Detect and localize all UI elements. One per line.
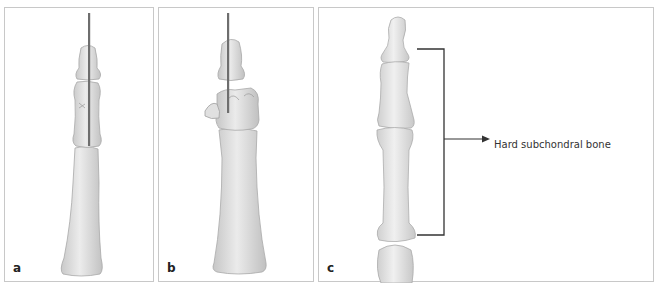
- bracket: [417, 49, 444, 235]
- proximal-phalanx: [61, 147, 102, 276]
- distal-phalanx: [381, 17, 409, 63]
- distal-phalanx: [218, 39, 245, 80]
- k-wire: [227, 13, 229, 113]
- bone-fragment: [205, 103, 220, 118]
- right-arrow-icon: [482, 136, 490, 143]
- proximal-phalanx: [377, 128, 416, 242]
- panel-label-c: c: [327, 261, 334, 275]
- middle-phalanx: [378, 62, 415, 129]
- panel-b: b: [158, 7, 314, 282]
- k-wire: [88, 13, 90, 146]
- panel-label-b: b: [167, 261, 176, 275]
- metacarpal-head: [377, 245, 413, 283]
- annotation-hard-subchondral-bone: Hard subchondral bone: [494, 139, 611, 150]
- proximal-phalanx: [213, 128, 266, 274]
- panel-c: Hard subchondral bone c: [318, 7, 654, 282]
- panel-a: a: [4, 7, 154, 282]
- middle-phalanx: [73, 81, 101, 147]
- middle-phalanx-fragment: [216, 88, 259, 130]
- finger-fracture-illustration: [159, 8, 315, 283]
- finger-k-wire-illustration: [5, 8, 155, 283]
- panel-label-a: a: [13, 261, 21, 275]
